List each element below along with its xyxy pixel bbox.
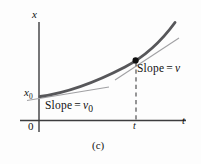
- slope-instantaneous-variable: v: [175, 62, 180, 74]
- x-axis-label: t: [182, 115, 185, 126]
- slope-instantaneous-equals: =: [164, 62, 175, 74]
- x-axis-tick-label-t: t: [133, 121, 136, 131]
- annotation-slope-initial: Slope=v0: [45, 100, 93, 114]
- slope-instantaneous-text: Slope: [137, 62, 164, 74]
- annotation-slope-instantaneous: Slope=v: [137, 63, 180, 75]
- y-intercept-subscript: 0: [29, 92, 33, 101]
- slope-initial-subscript: 0: [88, 103, 93, 114]
- y-intercept-label: x0: [24, 87, 33, 101]
- figure-caption: (c): [92, 140, 104, 151]
- position-curve: [40, 23, 175, 97]
- y-axis-label: x: [32, 9, 37, 20]
- origin-label: 0: [28, 121, 34, 132]
- slope-initial-text: Slope: [45, 99, 72, 111]
- figure-container: x t x0 0 t Slope=v0 Slope=v (c): [0, 0, 201, 164]
- slope-initial-equals: =: [72, 99, 83, 111]
